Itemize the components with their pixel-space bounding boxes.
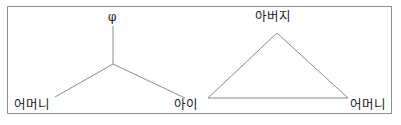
left-diagram-bottom-right-label: 아이 <box>174 99 198 112</box>
right-diagram-apex-label: 아버지 <box>255 11 291 24</box>
figure-border <box>7 6 392 114</box>
left-diagram-bottom-left-label: 어머니 <box>14 99 50 112</box>
diagram-figure: φ 어머니 아이 아버지 어머니 <box>0 0 401 125</box>
right-diagram-bottom-right-label: 어머니 <box>350 99 386 112</box>
left-diagram-top-label: φ <box>108 11 116 23</box>
